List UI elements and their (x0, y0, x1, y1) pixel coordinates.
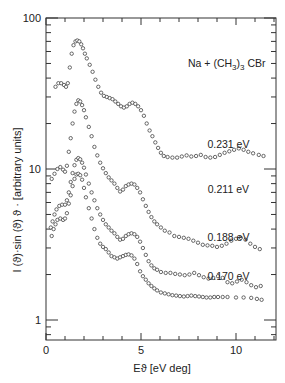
data-point (136, 186, 139, 189)
data-point (253, 245, 256, 248)
data-point (107, 176, 110, 179)
data-point (215, 245, 218, 248)
data-point (71, 122, 74, 125)
data-points (49, 39, 265, 302)
data-point (52, 227, 55, 230)
data-point (53, 172, 56, 175)
series-label: 0.188 eV (207, 231, 249, 243)
data-point (151, 135, 154, 138)
data-point (169, 271, 172, 274)
data-point (147, 260, 150, 263)
data-point (99, 161, 102, 164)
data-point (138, 240, 141, 243)
x-tick-label: 0 (43, 344, 49, 356)
x-tick-label: 5 (138, 344, 144, 356)
data-point (93, 199, 96, 202)
data-point (234, 296, 237, 299)
x-axis-label: Eϑ [eV deg] (133, 362, 190, 374)
data-point (150, 264, 153, 267)
data-point (79, 100, 82, 103)
data-point (154, 141, 157, 144)
data-point (99, 242, 102, 245)
data-point (50, 234, 53, 237)
data-point (136, 105, 139, 108)
data-point (163, 292, 166, 295)
data-point (113, 232, 116, 235)
data-point (213, 155, 216, 158)
data-point (71, 184, 74, 187)
data-point (90, 191, 93, 194)
data-point (159, 270, 162, 273)
data-point (93, 227, 96, 230)
data-point (159, 291, 162, 294)
data-point (164, 271, 167, 274)
data-point (142, 114, 145, 117)
data-point (220, 244, 223, 247)
data-point (159, 226, 162, 229)
y-tick-label: 10 (29, 163, 41, 175)
data-point (204, 155, 207, 158)
data-point (82, 109, 85, 112)
data-point (99, 91, 102, 94)
data-point (107, 251, 110, 254)
data-point (63, 170, 66, 173)
data-point (247, 150, 250, 153)
series-label: 0.170 eV (207, 270, 249, 282)
data-point (96, 236, 99, 239)
data-point (260, 298, 263, 301)
data-point (206, 244, 209, 247)
data-point (84, 196, 87, 199)
data-point (171, 156, 174, 159)
data-point (257, 153, 260, 156)
data-point (141, 198, 144, 201)
data-point (113, 182, 116, 185)
data-point (73, 164, 76, 167)
data-point (80, 43, 83, 46)
data-point (194, 154, 197, 157)
data-point (183, 274, 186, 277)
data-point (83, 52, 86, 55)
data-point (147, 210, 150, 213)
data-point (139, 109, 142, 112)
data-point (72, 44, 75, 47)
y-axis-label: I (ϑ)·sin (ϑ) ϑ · [arbitrary units] (11, 127, 23, 272)
data-point (255, 297, 258, 300)
data-point (68, 66, 71, 69)
data-point (141, 275, 144, 278)
data-point (259, 284, 262, 287)
data-point (104, 223, 107, 226)
data-point (116, 235, 119, 238)
data-point (205, 296, 208, 299)
data-point (196, 241, 199, 244)
data-point (71, 171, 74, 174)
series-label: 0.211 eV (208, 183, 249, 195)
data-point (173, 234, 176, 237)
data-point (148, 129, 151, 132)
data-point (251, 152, 254, 155)
data-point (250, 284, 253, 287)
data-point (138, 270, 141, 273)
data-point (201, 243, 204, 246)
data-point (150, 215, 153, 218)
data-point (110, 229, 113, 232)
data-point (190, 294, 193, 297)
data-point (226, 295, 229, 298)
data-point (185, 154, 188, 157)
data-point (177, 235, 180, 238)
data-point (70, 52, 73, 55)
data-point (167, 293, 170, 296)
data-point (81, 47, 84, 50)
data-point (63, 217, 66, 220)
data-point (85, 57, 88, 60)
data-point (166, 155, 169, 158)
data-point (64, 85, 67, 88)
data-point (168, 231, 171, 234)
data-point (216, 295, 219, 298)
data-point (87, 125, 90, 128)
data-point (262, 154, 265, 157)
data-point (178, 294, 181, 297)
data-point (63, 203, 66, 206)
data-point (182, 236, 185, 239)
data-point (133, 257, 136, 260)
data-point (67, 150, 70, 153)
